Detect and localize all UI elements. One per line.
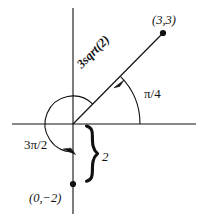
angle-label-three-pi-over-2: 3π/2 <box>24 138 47 151</box>
distance-brace <box>87 126 98 181</box>
point-marker-3-3 <box>160 30 166 36</box>
angle-label-pi-over-4: π/4 <box>144 87 161 100</box>
pi-over-4-arc <box>121 77 140 124</box>
polar-coordinate-diagram: (3,3) (0,−2) π/4 3π/2 2 3sqrt(2) <box>0 0 201 218</box>
point-label-3-3: (3,3) <box>152 14 176 27</box>
point-label-0-minus2: (0,−2) <box>29 192 61 205</box>
point-marker-0-minus2 <box>70 181 76 187</box>
brace-label-2: 2 <box>102 150 109 163</box>
